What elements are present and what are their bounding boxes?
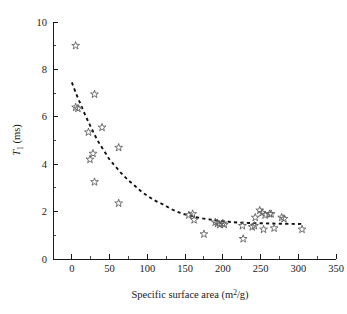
data-point-star	[260, 225, 268, 232]
data-point-star	[98, 123, 106, 130]
data-point-star	[239, 222, 247, 229]
x-tick-label: 0	[69, 263, 74, 274]
y-tick-label: 2	[42, 206, 47, 217]
y-tick-label: 10	[37, 17, 48, 28]
data-point-star	[298, 225, 306, 232]
y-axis-title: T1 (ms)	[11, 124, 25, 156]
x-axis-title: Specific surface area (m2/g)	[131, 288, 249, 301]
y-tick-label: 8	[42, 64, 47, 75]
data-point-star	[115, 144, 123, 151]
chart-figure: 050100150200250300350 0246810 Specific s…	[0, 0, 347, 314]
scatter-plot-canvas: 050100150200250300350 0246810 Specific s…	[0, 0, 347, 314]
x-tick-label: 250	[253, 263, 269, 274]
x-tick-label: 150	[177, 263, 193, 274]
fit-curve-dashed	[72, 82, 303, 223]
data-point-star	[251, 213, 259, 220]
data-point-star	[91, 178, 99, 185]
data-point-star	[115, 199, 123, 206]
x-tick-label: 100	[139, 263, 155, 274]
data-point-star	[270, 224, 278, 231]
y-tick-label: 4	[42, 159, 48, 170]
x-axis-tick-labels: 050100150200250300350	[69, 263, 344, 274]
data-point-star	[200, 230, 208, 237]
data-point-star	[91, 90, 99, 97]
y-axis-ticks	[53, 22, 58, 259]
x-tick-label: 200	[215, 263, 231, 274]
data-point-star	[85, 128, 93, 135]
x-tick-label: 350	[328, 263, 344, 274]
data-point-star	[239, 235, 247, 242]
fit-curve-path	[72, 82, 303, 223]
x-tick-label: 300	[290, 263, 306, 274]
x-axis-ticks	[72, 254, 336, 259]
x-tick-label: 50	[104, 263, 115, 274]
data-points-group	[72, 42, 306, 243]
y-tick-label: 6	[42, 111, 47, 122]
data-point-star	[86, 155, 94, 162]
data-point-star	[72, 42, 80, 49]
y-tick-label: 0	[42, 254, 47, 265]
y-axis-tick-labels: 0246810	[37, 17, 48, 265]
